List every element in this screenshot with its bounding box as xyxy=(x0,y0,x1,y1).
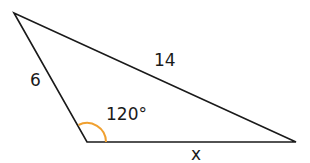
triangle xyxy=(14,13,296,142)
angle-arc xyxy=(79,123,107,142)
side-top-label: 14 xyxy=(154,50,176,70)
angle-label: 120° xyxy=(106,104,147,124)
side-bottom-label: x xyxy=(191,144,201,163)
triangle-diagram: 6 14 x 120° xyxy=(0,0,310,163)
side-left-label: 6 xyxy=(30,70,41,90)
